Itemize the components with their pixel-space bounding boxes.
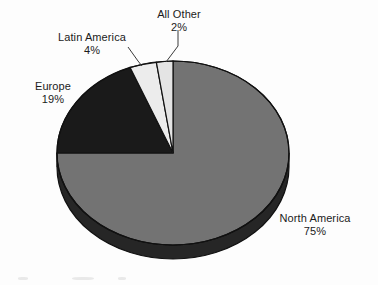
scan-artifact [18,277,28,280]
label-latin-america-pct: 4% [42,44,142,57]
label-europe-pct: 19% [16,93,90,106]
label-north-america-name: North America [280,212,351,224]
label-latin-america-name: Latin America [58,31,126,43]
label-europe: Europe 19% [16,80,90,106]
label-europe-name: Europe [35,80,71,92]
label-latin-america: Latin America 4% [42,31,142,57]
pie-chart: All Other 2% Latin America 4% Europe 19%… [0,0,378,285]
label-all-other-pct: 2% [144,21,214,34]
label-north-america: North America 75% [263,212,367,238]
scan-artifact [118,277,126,280]
leader-line-all-other [166,30,178,62]
label-all-other-name: All Other [157,8,201,20]
label-north-america-pct: 75% [263,225,367,238]
scan-artifact [72,277,94,280]
label-all-other: All Other 2% [144,8,214,34]
